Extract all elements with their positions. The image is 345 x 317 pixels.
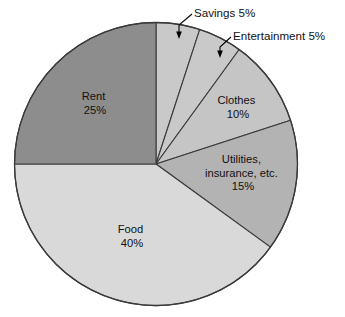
slice-label-rent: Rent 25% — [82, 90, 109, 116]
callout-savings-label: Savings 5% — [194, 6, 255, 19]
slice-label-clothes-value: 10% — [227, 108, 249, 120]
slice-label-utilities-name-1: Utilities, — [222, 153, 261, 165]
slice-label-food-value: 40% — [121, 237, 143, 249]
callout-entertainment-label: Entertainment 5% — [233, 29, 325, 42]
svg-text:Rent 25%: Rent 25% — [82, 90, 109, 116]
slice-label-rent-name: Rent — [82, 90, 107, 102]
pie-chart-canvas: Rent 25% Food 40% Clothes 10% Utilities,… — [0, 0, 345, 317]
slice-label-food: Food 40% — [118, 223, 147, 249]
slice-label-food-name: Food — [118, 223, 144, 235]
slice-label-clothes-name: Clothes — [217, 94, 255, 106]
slice-label-utilities-value: 15% — [232, 180, 254, 192]
slice-label-rent-value: 25% — [84, 104, 106, 116]
svg-text:Food 40%: Food 40% — [118, 223, 147, 249]
pie-chart-figure: Rent 25% Food 40% Clothes 10% Utilities,… — [0, 0, 345, 317]
slice-label-utilities-name-2: insurance, etc. — [205, 167, 278, 179]
